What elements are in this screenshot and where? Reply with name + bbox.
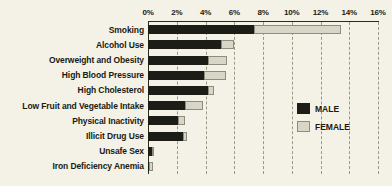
chart-legend: MALEFEMALE bbox=[297, 101, 381, 137]
bar-segment-female bbox=[152, 147, 155, 156]
x-tick-label: 10% bbox=[284, 8, 299, 18]
bar-row bbox=[148, 25, 378, 34]
category-label: Iron Deficiency Anemia bbox=[0, 161, 144, 171]
x-tick-label: 6% bbox=[229, 8, 240, 18]
chart-container: 0%2%4%6%8%10%12%14%16% SmokingAlcohol Us… bbox=[0, 0, 392, 186]
bar-segment-male bbox=[148, 40, 221, 49]
bar-segment-female bbox=[178, 116, 185, 125]
x-tick-label: 2% bbox=[171, 8, 182, 18]
y-axis-category-labels: SmokingAlcohol UseOverweight and Obesity… bbox=[0, 22, 144, 174]
bar-segment-male bbox=[148, 132, 183, 141]
bar-segment-male bbox=[148, 71, 204, 80]
category-label: Illicit Drug Use bbox=[0, 131, 144, 141]
bar-segment-female bbox=[208, 86, 214, 95]
bar-segment-female bbox=[183, 132, 187, 141]
plot-area bbox=[148, 22, 378, 174]
x-tick-label: 4% bbox=[200, 8, 211, 18]
bar-segment-female bbox=[149, 162, 153, 171]
category-label: Alcohol Use bbox=[0, 40, 144, 50]
x-tick-label: 8% bbox=[257, 8, 268, 18]
x-tick-label: 14% bbox=[342, 8, 357, 18]
bar-segment-male bbox=[148, 116, 178, 125]
bar-segment-female bbox=[204, 71, 226, 80]
legend-label: FEMALE bbox=[315, 122, 350, 132]
legend-item: MALE bbox=[297, 101, 381, 116]
bar-segment-male bbox=[148, 101, 185, 110]
legend-swatch-female-icon bbox=[297, 121, 310, 132]
category-label: Low Fruit and Vegetable Intake bbox=[0, 101, 144, 111]
bar-segment-male bbox=[148, 25, 254, 34]
x-axis-tick-labels: 0%2%4%6%8%10%12%14%16% bbox=[148, 8, 378, 20]
x-tick-label: 12% bbox=[313, 8, 328, 18]
category-label: Smoking bbox=[0, 25, 144, 35]
legend-swatch-male-icon bbox=[297, 103, 310, 114]
bar-row bbox=[148, 147, 378, 156]
category-label: Overweight and Obesity bbox=[0, 55, 144, 65]
category-label: Unsafe Sex bbox=[0, 146, 144, 156]
bar-segment-female bbox=[221, 40, 234, 49]
bar-row bbox=[148, 40, 378, 49]
bar-segment-male bbox=[148, 86, 208, 95]
bar-segment-female bbox=[254, 25, 340, 34]
bar-row bbox=[148, 71, 378, 80]
bar-segment-male bbox=[148, 56, 208, 65]
category-label: High Blood Pressure bbox=[0, 70, 144, 80]
legend-item: FEMALE bbox=[297, 119, 381, 134]
bar-row bbox=[148, 162, 378, 171]
bar-row bbox=[148, 86, 378, 95]
x-tick-label: 16% bbox=[370, 8, 385, 18]
bar-row bbox=[148, 56, 378, 65]
x-tick-label: 0% bbox=[142, 8, 153, 18]
bar-segment-female bbox=[185, 101, 202, 110]
legend-label: MALE bbox=[315, 104, 339, 114]
category-label: Physical Inactivity bbox=[0, 116, 144, 126]
gridline bbox=[378, 22, 380, 174]
category-label: High Cholesterol bbox=[0, 85, 144, 95]
bar-segment-female bbox=[208, 56, 227, 65]
